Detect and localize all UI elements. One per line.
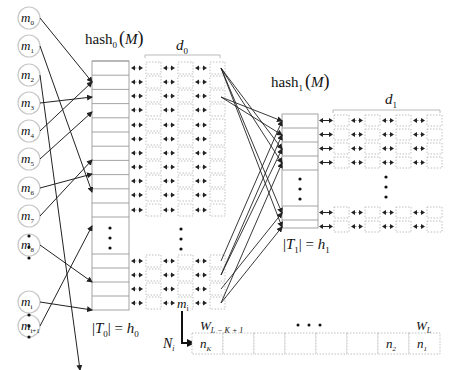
message-node: m0 — [18, 7, 40, 29]
chain-d1 — [319, 115, 442, 232]
message-node: m6 — [18, 177, 40, 199]
d0-label: d0 — [145, 37, 220, 58]
svg-text:|T1| = h1: |T1| = h1 — [283, 236, 330, 255]
window-cell — [316, 333, 347, 354]
hash0-mapping-arrows — [40, 18, 92, 370]
window-cell — [347, 333, 378, 354]
hash1-label: hash1(M) — [271, 71, 330, 93]
hash1-mapping-arrows — [221, 68, 282, 303]
hash-table-diagram: hash0(M) hash1(M) d0 d1 m0m1m2m3m4m5m6m7… — [0, 0, 458, 370]
message-list: m0m1m2m3m4m5m6m7m8mimi+1 — [18, 7, 40, 337]
svg-text:hash0(M): hash0(M) — [85, 28, 144, 50]
hash-table-t0 — [92, 61, 129, 310]
chain-d0 — [131, 62, 225, 309]
svg-text:|T0| = h0: |T0| = h0 — [92, 320, 139, 339]
message-node: m7 — [18, 205, 40, 227]
t0-size-label: |T0| = h0 — [92, 320, 139, 339]
message-node: m5 — [18, 148, 40, 170]
message-node: m2 — [18, 64, 40, 86]
message-node: m1 — [18, 35, 40, 57]
window-cell: n2 — [378, 333, 409, 354]
window-cell — [254, 333, 285, 354]
sliding-window: nKn2n1 — [192, 333, 440, 354]
d1-label: d1 — [333, 91, 440, 113]
message-node: mi — [18, 291, 40, 313]
svg-text:d0: d0 — [176, 37, 189, 56]
svg-text:Ni: Ni — [162, 336, 175, 353]
window-right-label: WL — [416, 318, 432, 335]
hash0-label: hash0(M) — [85, 28, 144, 50]
message-node: m4 — [18, 120, 40, 142]
svg-text:WL − K + 1: WL − K + 1 — [200, 318, 243, 335]
window-cell: n1 — [409, 333, 440, 354]
window-cell: nK — [192, 333, 223, 354]
ni-label: Ni — [162, 336, 175, 353]
message-node: m3 — [18, 92, 40, 114]
svg-text:d1: d1 — [385, 91, 397, 110]
chain-item-mi: mi — [176, 296, 191, 313]
t1-size-label: |T1| = h1 — [283, 236, 330, 255]
window-dots — [297, 324, 322, 327]
window-cell — [223, 333, 254, 354]
svg-text:WL: WL — [416, 318, 432, 335]
window-left-label: WL − K + 1 — [200, 318, 243, 335]
hash-table-t1 — [282, 114, 318, 228]
window-cell — [285, 333, 316, 354]
svg-text:hash1(M): hash1(M) — [271, 71, 330, 93]
